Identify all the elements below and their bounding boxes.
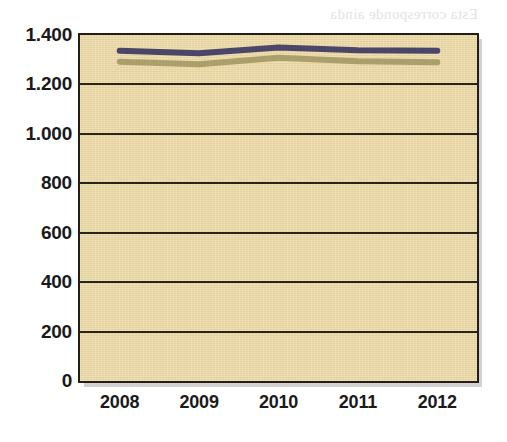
series-line-series-2 (120, 58, 438, 64)
series-layer (0, 0, 507, 442)
series-line-series-1 (120, 47, 438, 53)
line-chart: 02004006008001.0001.2001.400 20082009201… (0, 0, 507, 442)
